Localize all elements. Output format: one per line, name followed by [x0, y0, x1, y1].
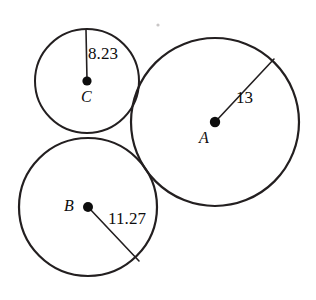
circle-a-center-dot	[210, 117, 220, 127]
circle-c-radius-label: 8.23	[88, 45, 118, 62]
geometry-figure: C A B 8.23 13 11.27	[0, 0, 316, 300]
scan-speck-icon	[156, 23, 159, 26]
circle-b-radius-label: 11.27	[108, 210, 146, 227]
circle-b-center-label: B	[64, 198, 74, 214]
circle-a-center-label: A	[199, 130, 209, 146]
figure-canvas	[0, 0, 316, 300]
circle-c-center-label: C	[81, 89, 92, 105]
circle-b-center-dot	[83, 202, 93, 212]
circle-a-radius-label: 13	[236, 89, 253, 106]
circle-c-radius-line	[86, 30, 87, 80]
circle-c-center-dot	[82, 76, 91, 85]
